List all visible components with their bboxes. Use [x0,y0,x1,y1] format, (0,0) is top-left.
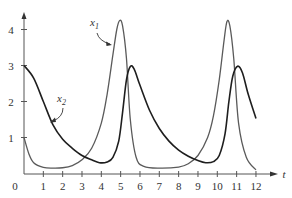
x2-label-sub: 2 [62,98,66,107]
x-tick-label: 9 [195,180,201,192]
line-chart: 123456789101112 1234 0 t x1 x2 [0,0,292,198]
x-axis-label: t [282,168,286,180]
axes: 123456789101112 1234 0 t [8,12,286,192]
x2-annotation: x2 [50,92,66,123]
x-tick-label: 12 [250,180,261,192]
y-tick-label: 2 [8,96,14,108]
x-tick-label: 10 [212,180,224,192]
y-tick-label: 4 [8,24,14,36]
svg-text:x2: x2 [56,92,66,107]
origin-label: 0 [12,180,18,192]
y-axis-arrow-icon [22,12,27,19]
x-tick-label: 1 [41,180,47,192]
svg-text:x1: x1 [89,16,99,31]
x1-annotation-arrow [97,33,110,44]
x-tick-label: 11 [231,180,242,192]
y-tick-label: 3 [8,60,14,72]
x-tick-label: 5 [118,180,124,192]
x-axis-arrow-icon [270,172,278,177]
x-tick-label: 3 [79,180,85,192]
series-x2-line [24,66,256,163]
x-tick-label: 7 [157,180,163,192]
x-tick-label: 6 [137,180,143,192]
y-tick-label: 1 [8,132,14,144]
x1-label-sub: 1 [95,22,99,31]
x-tick-label: 4 [99,180,105,192]
x-tick-label: 2 [60,180,66,192]
x1-annotation: x1 [89,16,112,46]
x-tick-label: 8 [176,180,182,192]
x1-arrowhead-icon [106,42,112,47]
